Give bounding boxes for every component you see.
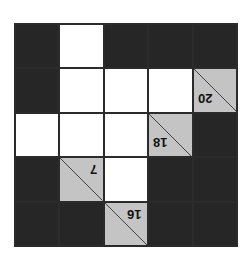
black-cell	[15, 68, 59, 112]
kakuro-board: 20 18 7 16	[14, 23, 238, 247]
entry-cell[interactable]	[15, 113, 59, 157]
black-cell	[148, 202, 192, 246]
black-cell	[104, 24, 148, 68]
clue-cell: 7	[59, 157, 103, 201]
clue-number: 7	[90, 162, 97, 177]
entry-cell[interactable]	[104, 113, 148, 157]
black-cell	[148, 24, 192, 68]
clue-cell: 18	[148, 113, 192, 157]
clue-cell: 16	[104, 202, 148, 246]
black-cell	[59, 202, 103, 246]
black-cell	[15, 24, 59, 68]
clue-number: 20	[198, 91, 212, 106]
entry-cell[interactable]	[104, 157, 148, 201]
entry-cell[interactable]	[104, 68, 148, 112]
black-cell	[193, 202, 237, 246]
black-cell	[193, 157, 237, 201]
black-cell	[15, 157, 59, 201]
entry-cell[interactable]	[59, 68, 103, 112]
black-cell	[193, 113, 237, 157]
clue-cell: 20	[193, 68, 237, 112]
black-cell	[193, 24, 237, 68]
entry-cell[interactable]	[148, 68, 192, 112]
entry-cell[interactable]	[59, 113, 103, 157]
clue-number: 16	[127, 207, 141, 222]
black-cell	[15, 202, 59, 246]
clue-number: 18	[153, 135, 167, 150]
entry-cell[interactable]	[59, 24, 103, 68]
black-cell	[148, 157, 192, 201]
